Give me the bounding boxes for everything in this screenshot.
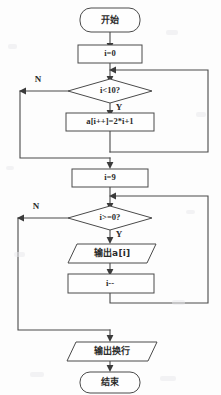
arrowhead-merge-to-i9: [107, 162, 114, 169]
node-dec-i[interactable]: i--: [68, 274, 154, 293]
node-cond-ge0[interactable]: i>=0?: [68, 206, 152, 230]
arrowhead-merge-to-newline: [107, 335, 114, 342]
cond-lt10-label: i<10?: [100, 85, 120, 95]
branch-label-loop2-no: N: [33, 201, 40, 211]
set-i9-label: i=9: [104, 172, 116, 182]
arrowhead-cond2-yes: [107, 237, 114, 244]
branch-label-loop2-yes: Y: [116, 229, 123, 239]
branch-label-loop1-yes: Y: [116, 102, 123, 112]
assign-arr-label: a[i++]=2*i+1: [86, 116, 133, 126]
node-init-i[interactable]: i=0: [78, 45, 142, 63]
node-assign-arr[interactable]: a[i++]=2*i+1: [66, 113, 154, 131]
print-newline-label: 输出换行: [94, 345, 131, 356]
connector-loop1-feedback: [110, 70, 208, 152]
node-start[interactable]: 开始: [80, 8, 140, 32]
branch-label-loop1-no: N: [35, 74, 42, 84]
arrowhead-newline-to-end: [107, 365, 114, 372]
start-label: 开始: [101, 14, 119, 25]
print-ai-label: 输出a[i]: [94, 247, 131, 258]
flowchart-svg: 开始 i=0 i<10? a[i++]=2*i+1 i=9 i>=0?: [0, 0, 221, 395]
node-end[interactable]: 结束: [80, 372, 140, 393]
cond-ge0-label: i>=0?: [100, 212, 121, 222]
node-print-ai[interactable]: 输出a[i]: [68, 244, 156, 263]
node-print-newline[interactable]: 输出换行: [67, 342, 157, 361]
dec-i-label: i--: [106, 278, 114, 288]
init-i-label: i=0: [104, 48, 116, 58]
end-label: 结束: [101, 376, 120, 387]
flowchart-canvas: 开始 i=0 i<10? a[i++]=2*i+1 i=9 i>=0?: [0, 0, 221, 395]
node-cond-lt10[interactable]: i<10?: [68, 79, 152, 103]
node-set-i9[interactable]: i=9: [72, 169, 148, 187]
